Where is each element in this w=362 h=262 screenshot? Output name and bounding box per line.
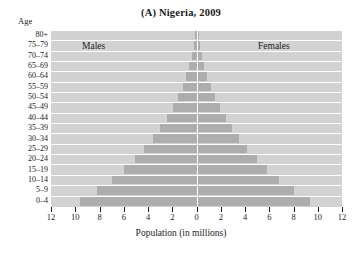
x-tick-label: 4 bbox=[243, 212, 247, 222]
males-side-label: Males bbox=[82, 41, 105, 51]
age-tick-label: 15–19 bbox=[28, 166, 48, 175]
female-bar bbox=[197, 124, 232, 132]
population-pyramid-figure: (A) Nigeria, 2009 Age 80+75–7970–7465–69… bbox=[0, 0, 362, 262]
female-bar bbox=[197, 83, 212, 91]
female-bar bbox=[197, 145, 248, 153]
x-tick-label: 10 bbox=[71, 212, 80, 222]
age-tick-label: 80+ bbox=[35, 31, 48, 40]
age-tick-label: 5–9 bbox=[36, 186, 48, 195]
male-bar bbox=[167, 114, 196, 122]
male-bar bbox=[144, 145, 196, 153]
x-tick-label: 2 bbox=[170, 212, 174, 222]
male-bar bbox=[124, 165, 197, 173]
male-bar bbox=[97, 186, 196, 194]
x-tick-label: 6 bbox=[267, 212, 271, 222]
age-tick-label: 70–74 bbox=[28, 52, 48, 61]
age-tick-label: 65–69 bbox=[28, 62, 48, 71]
female-bar bbox=[197, 165, 267, 173]
male-bar bbox=[160, 124, 196, 132]
age-tick-label: 10–14 bbox=[28, 176, 48, 185]
x-tick-label: 12 bbox=[338, 212, 347, 222]
x-tick-label: 8 bbox=[97, 212, 101, 222]
x-tick-label: 10 bbox=[314, 212, 323, 222]
y-axis-caption: Age bbox=[18, 16, 32, 26]
age-tick-label: 25–29 bbox=[28, 145, 48, 154]
age-tick-label: 35–39 bbox=[28, 124, 48, 133]
x-tick-label: 12 bbox=[47, 212, 56, 222]
age-tick-label: 40–44 bbox=[28, 114, 48, 123]
age-tick-label: 75–79 bbox=[28, 41, 48, 50]
male-bar bbox=[112, 176, 197, 184]
x-tick-label: 6 bbox=[122, 212, 126, 222]
x-tick-label: 4 bbox=[146, 212, 150, 222]
x-tick-label: 2 bbox=[219, 212, 223, 222]
female-bar bbox=[197, 93, 215, 101]
male-bar bbox=[153, 134, 197, 142]
age-tick-label: 20–24 bbox=[28, 155, 48, 164]
age-tick-labels: 80+75–7970–7465–6960–6455–5950–5445–4940… bbox=[0, 31, 48, 207]
chart-title: (A) Nigeria, 2009 bbox=[0, 7, 362, 18]
male-bar bbox=[183, 83, 196, 91]
male-bar bbox=[173, 103, 196, 111]
plot-area bbox=[51, 31, 342, 207]
female-bar bbox=[197, 72, 208, 80]
female-bar bbox=[197, 114, 226, 122]
female-bar bbox=[197, 176, 279, 184]
age-tick-label: 55–59 bbox=[28, 83, 48, 92]
age-tick-label: 50–54 bbox=[28, 93, 48, 102]
age-tick-label: 30–34 bbox=[28, 135, 48, 144]
female-bar bbox=[197, 62, 205, 70]
male-bar bbox=[80, 197, 196, 206]
panel-letter: (A) bbox=[141, 7, 156, 18]
female-bar bbox=[197, 197, 311, 206]
age-tick-label: 0–4 bbox=[36, 197, 48, 206]
x-tick-label: 8 bbox=[291, 212, 295, 222]
female-bar bbox=[197, 155, 258, 163]
center-axis-line bbox=[197, 31, 198, 207]
male-bar bbox=[186, 72, 196, 80]
x-tick-label: 0 bbox=[194, 212, 198, 222]
age-tick-label: 45–49 bbox=[28, 103, 48, 112]
female-bar bbox=[197, 186, 294, 194]
females-side-label: Females bbox=[258, 41, 290, 51]
chart-title-text: Nigeria, 2009 bbox=[159, 7, 221, 18]
female-bar bbox=[197, 134, 239, 142]
male-bar bbox=[135, 155, 197, 163]
female-bar bbox=[197, 103, 220, 111]
age-tick-label: 60–64 bbox=[28, 72, 48, 81]
male-bar bbox=[189, 62, 196, 70]
x-axis-label: Population (in millions) bbox=[0, 228, 362, 238]
male-bar bbox=[178, 93, 196, 101]
x-axis-tick-labels: 12108642024681012 bbox=[51, 212, 342, 224]
